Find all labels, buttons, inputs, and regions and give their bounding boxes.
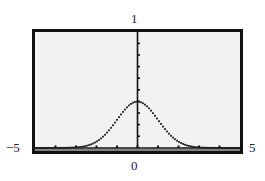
x-tick [96,146,98,149]
x-tick [137,146,139,149]
y-tick [138,43,141,45]
y-tick [138,66,141,68]
x-tick [178,146,180,149]
x-origin-label: 0 [131,159,138,172]
y-tick [138,112,141,114]
y-max-label: 1 [131,12,138,25]
y-tick [138,124,141,126]
y-tick [138,135,141,137]
x-tick [157,146,159,149]
y-tick [138,54,141,56]
calculator-graph-screen [0,0,265,181]
x-tick [116,146,118,149]
y-tick [138,77,141,79]
y-tick [138,89,141,91]
x-max-label: 5 [249,141,256,154]
x-min-label: −5 [6,141,20,154]
